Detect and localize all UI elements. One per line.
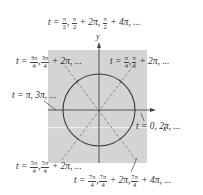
y-axis-label: y xyxy=(96,32,100,42)
label-lower-left: t = 5π4,5π4 + 2π, ... xyxy=(16,160,82,174)
y-axis-arrow-icon xyxy=(97,42,101,48)
label-right: t = 0, 2π, ... xyxy=(136,121,181,131)
label-upper-right: t = π4,π4 + 2π, ... xyxy=(110,55,169,69)
label-top: t = π2, π2 + 2π, π2 + 4π, ... xyxy=(48,16,140,30)
label-bottom: t = 7π4,7π4 + 2π,7π4 + 4π, ... xyxy=(74,174,171,188)
label-left: t = π, 3π, ... xyxy=(12,90,57,100)
panel-stripe xyxy=(48,127,147,128)
x-axis-arrow-icon xyxy=(150,108,156,112)
label-upper-left: t = 3π4,3π4 + 2π, ... xyxy=(16,55,82,69)
